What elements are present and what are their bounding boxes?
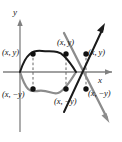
point-upper-mid (63, 51, 68, 56)
rising-line-arrow (97, 23, 105, 33)
point-label-upper-left: (x, y) (2, 48, 19, 57)
point-label-lower-mid: (x, −y) (54, 97, 77, 106)
x-axis-arrow (105, 69, 112, 75)
point-label-upper-right: (x, y) (88, 48, 105, 57)
falling-line-arrow (102, 113, 110, 123)
point-label-lower-right: (x, −y) (88, 89, 111, 98)
y-axis-label: y (13, 8, 17, 17)
figure-canvas (0, 0, 122, 142)
point-label-upper-mid: (x, y) (57, 38, 74, 47)
point-upper-left (30, 51, 35, 56)
point-label-lower-left: (x, −y) (2, 90, 25, 99)
symmetry-figure: x y (x, y) (x, y) (x, y) (x, −y) (x, −y)… (0, 0, 122, 142)
x-axis-label: x (98, 76, 102, 85)
y-axis-arrow (17, 19, 22, 26)
point-lower-left (30, 86, 35, 91)
point-lower-mid (63, 86, 68, 91)
